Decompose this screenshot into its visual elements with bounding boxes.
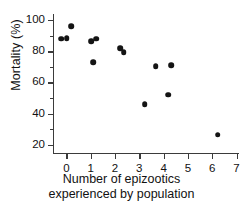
data-point [90, 59, 96, 65]
data-point [142, 101, 148, 107]
y-tick-minor-30 [50, 129, 53, 130]
y-tick-label-80: 80 [15, 45, 45, 57]
data-point [64, 35, 70, 41]
x-tick-4 [164, 154, 165, 159]
y-tick-60 [48, 82, 53, 83]
data-point [166, 92, 172, 98]
y-tick-minor-50 [50, 98, 53, 99]
y-tick-minor-70 [50, 67, 53, 68]
data-point [153, 63, 159, 69]
x-tick-3 [139, 154, 140, 159]
data-point [93, 36, 99, 42]
y-tick-label-40: 40 [15, 108, 45, 120]
y-tick-40 [48, 114, 53, 115]
data-point [68, 24, 74, 30]
y-tick-20 [48, 145, 53, 146]
x-tick-6 [212, 154, 213, 159]
scatter-chart-figure: Mortality (%) 20406080100 01234567 Numbe… [0, 0, 243, 210]
plot-area [53, 14, 239, 154]
y-axis-line [53, 14, 54, 154]
x-axis-title: Number of epizootics experienced by popu… [0, 172, 243, 202]
y-tick-80 [48, 51, 53, 52]
y-tick-label-60: 60 [15, 76, 45, 88]
y-tick-minor-90 [50, 36, 53, 37]
y-tick-label-20: 20 [15, 139, 45, 151]
x-axis-line [53, 153, 239, 154]
x-tick-0 [66, 154, 67, 159]
x-tick-1 [91, 154, 92, 159]
x-tick-7 [237, 154, 238, 159]
y-tick-label-100: 100 [15, 14, 45, 26]
data-point [121, 49, 127, 55]
y-tick-100 [48, 20, 53, 21]
data-point [58, 36, 64, 42]
x-axis-title-line2: experienced by population [0, 187, 243, 202]
data-point [215, 132, 221, 138]
x-tick-2 [115, 154, 116, 159]
data-point [169, 63, 175, 69]
x-axis-title-line1: Number of epizootics [0, 172, 243, 187]
x-tick-5 [188, 154, 189, 159]
